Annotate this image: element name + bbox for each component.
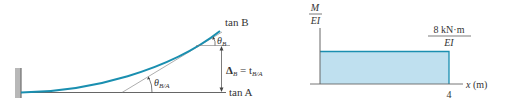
theta-b-label: θB xyxy=(217,35,227,48)
x-axis-label: x (m) xyxy=(465,79,487,91)
arrowhead-down-icon xyxy=(220,88,224,93)
y-axis-label-num: M xyxy=(310,2,320,13)
diagram-canvas: tan B θB θB/A ΔB = tB/A tan A M EI 8 kN·… xyxy=(0,0,506,106)
tan-b-label: tan B xyxy=(225,16,249,28)
fixed-wall xyxy=(15,68,21,98)
y-axis-label-den: EI xyxy=(310,15,321,26)
tan-a-label: tan A xyxy=(229,86,253,98)
moment-area xyxy=(320,52,449,85)
elastic-curve xyxy=(21,31,220,93)
cantilever-figure: tan B θB θB/A ΔB = tB/A tan A xyxy=(15,16,263,98)
delta-b-label: ΔB = tB/A xyxy=(226,64,263,78)
x-tick-4: 4 xyxy=(447,89,452,100)
theta-ba-arc xyxy=(149,78,152,93)
value-label-den: EI xyxy=(443,37,454,48)
m-ei-diagram: M EI 8 kN·m EI x (m) 4 xyxy=(309,2,487,100)
theta-ba-label: θB/A xyxy=(154,77,170,90)
value-label-num: 8 kN·m xyxy=(434,24,465,35)
